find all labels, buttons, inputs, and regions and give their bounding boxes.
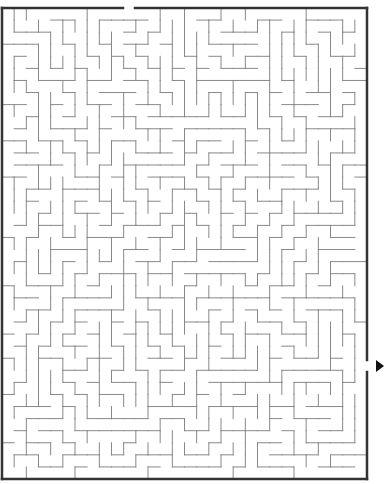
maze-board[interactable] — [0, 0, 384, 484]
maze-walls — [2, 8, 367, 479]
exit-arrow-icon — [376, 360, 384, 372]
